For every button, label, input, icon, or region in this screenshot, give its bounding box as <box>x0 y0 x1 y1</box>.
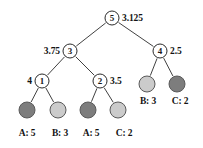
tree-edge <box>76 57 95 76</box>
tree-edge <box>46 88 54 102</box>
leaf-label-l5: B: 3 <box>140 96 156 106</box>
tree-edge <box>119 23 154 47</box>
leaf-label-l3: A: 5 <box>83 128 100 138</box>
node-value-n2: 3.5 <box>110 76 122 86</box>
node-value-root: 3.125 <box>122 13 143 23</box>
leaf-label-l2: B: 3 <box>52 128 68 138</box>
leaf-label-l6: C: 2 <box>172 96 189 106</box>
game-tree-diagram: 53.12533.7542.51423.5A: 5B: 3A: 5C: 2B: … <box>0 0 203 148</box>
tree-edge <box>91 88 97 101</box>
tree-leaf-l3[interactable] <box>80 102 97 119</box>
tree-node-n3[interactable]: 3 <box>63 44 78 59</box>
tree-edge <box>164 58 173 76</box>
tree-leaf-l6[interactable] <box>169 76 186 93</box>
tree-edge <box>104 88 113 103</box>
tree-edge <box>47 57 64 75</box>
node-value-n4: 2.5 <box>170 46 182 56</box>
tree-node-n4[interactable]: 4 <box>153 44 168 59</box>
tree-node-n1[interactable]: 1 <box>35 74 50 89</box>
node-value-n3: 3.75 <box>44 46 60 56</box>
tree-edge <box>31 88 38 102</box>
leaf-label-l4: C: 2 <box>116 128 133 138</box>
tree-leaf-l5[interactable] <box>139 76 156 93</box>
tree-edge <box>76 23 105 46</box>
leaf-label-l1: A: 5 <box>19 128 36 138</box>
node-value-n1: 4 <box>27 76 32 86</box>
tree-leaf-l4[interactable] <box>110 102 127 119</box>
tree-node-n2[interactable]: 2 <box>93 74 108 89</box>
tree-leaf-l1[interactable] <box>19 102 36 119</box>
tree-edge <box>150 58 157 75</box>
tree-leaf-l2[interactable] <box>50 102 67 119</box>
tree-node-root[interactable]: 5 <box>105 11 120 26</box>
